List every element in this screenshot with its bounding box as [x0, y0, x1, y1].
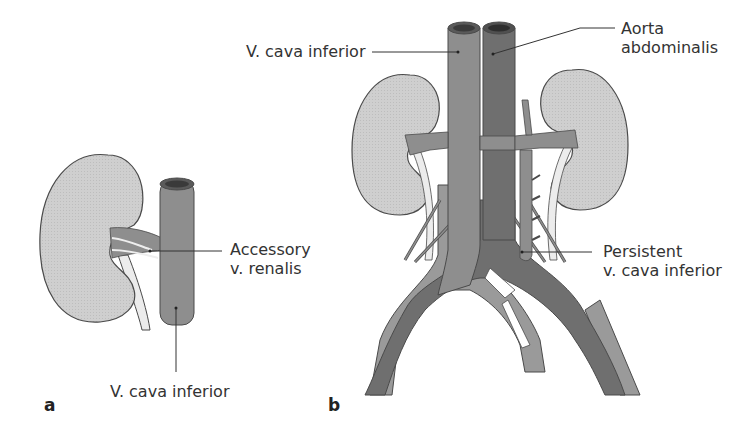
- renal-veins: [405, 132, 448, 155]
- label-ivc-a: V. cava inferior: [110, 382, 229, 401]
- label-line: Persistent: [603, 242, 722, 261]
- label-accessory-renal-vein: Accessory v. renalis: [230, 240, 311, 278]
- label-line: Accessory: [230, 240, 311, 259]
- persistent-ivc: [520, 150, 532, 261]
- panel-label-b: b: [328, 395, 340, 415]
- panel-b-drawing: [352, 22, 640, 395]
- label-line: Aorta: [621, 19, 718, 38]
- label-line: v. renalis: [230, 259, 311, 278]
- ivc-tube: [160, 180, 194, 325]
- panel-a-drawing: [40, 155, 222, 372]
- aorta-b: [483, 28, 515, 240]
- anatomy-figure: [0, 0, 756, 428]
- label-line: abdominalis: [621, 38, 718, 57]
- label-line: v. cava inferior: [603, 261, 722, 280]
- label-ivc-b: V. cava inferior: [246, 42, 365, 61]
- label-aorta: Aorta abdominalis: [621, 19, 718, 57]
- label-persistent-ivc: Persistent v. cava inferior: [603, 242, 722, 280]
- panel-label-a: a: [44, 395, 55, 415]
